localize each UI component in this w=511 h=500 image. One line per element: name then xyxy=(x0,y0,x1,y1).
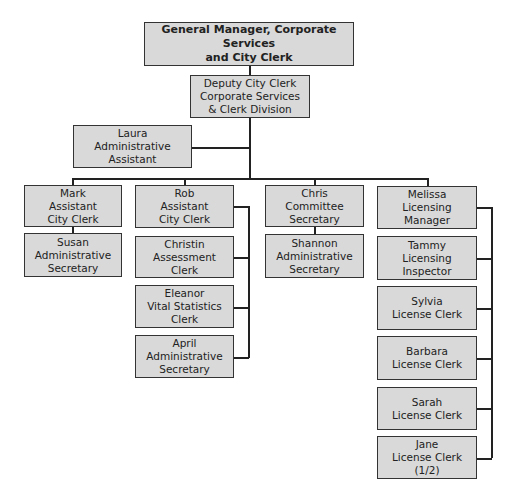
connector-bus xyxy=(72,178,429,180)
node-laura: Laura Administrative Assistant xyxy=(73,125,192,168)
node-tammy: Tammy Licensing Inspector xyxy=(377,236,477,280)
node-eleanor: Eleanor Vital Statistics Clerk xyxy=(135,285,234,328)
connector-deputy-trunk xyxy=(249,118,251,179)
node-mark: Mark Assistant City Clerk xyxy=(24,185,122,227)
connector-rob-side xyxy=(248,206,250,358)
connector-laura xyxy=(192,147,250,149)
node-deputy-city-clerk: Deputy City Clerk Corporate Services & C… xyxy=(190,75,310,118)
node-general-manager: General Manager, Corporate Services and … xyxy=(144,22,354,66)
connector-christin-stub xyxy=(234,257,249,259)
connector-april-stub xyxy=(234,357,249,359)
node-barbara: Barbara License Clerk xyxy=(377,336,477,380)
connector-barbara-stub xyxy=(477,358,492,360)
connector-jane-stub xyxy=(477,458,492,460)
connector-rob-stub xyxy=(234,206,249,208)
connector-mark xyxy=(72,178,74,185)
node-christin: Christin Assessment Clerk xyxy=(135,236,234,278)
connector-tammy-stub xyxy=(477,258,492,260)
connector-melissa-side xyxy=(491,207,493,458)
node-susan: Susan Administrative Secretary xyxy=(24,233,122,277)
connector-rob xyxy=(184,178,186,185)
connector-sylvia-stub xyxy=(477,308,492,310)
node-rob: Rob Assistant City Clerk xyxy=(135,185,234,228)
connector-sarah-stub xyxy=(477,408,492,410)
connector-melissa xyxy=(427,178,429,186)
node-sylvia: Sylvia License Clerk xyxy=(377,286,477,330)
node-shannon: Shannon Administrative Secretary xyxy=(265,234,364,278)
connector-top-deputy xyxy=(249,66,251,75)
connector-eleanor-stub xyxy=(234,307,249,309)
connector-melissa-stub xyxy=(477,207,492,209)
connector-chris-shannon xyxy=(314,227,316,234)
node-chris: Chris Committee Secretary xyxy=(265,185,364,227)
node-sarah: Sarah License Clerk xyxy=(377,387,477,430)
node-jane: Jane License Clerk (1/2) xyxy=(377,436,477,479)
node-april: April Administrative Secretary xyxy=(135,335,234,378)
connector-chris xyxy=(314,178,316,185)
node-melissa: Melissa Licensing Manager xyxy=(377,186,477,229)
